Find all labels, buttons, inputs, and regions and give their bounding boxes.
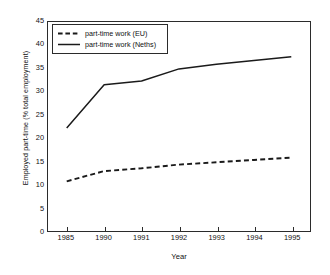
y-tick-label: 20 [22,135,44,142]
x-tick-label: 1990 [95,234,111,241]
y-tick-label: 15 [22,158,44,165]
x-tick-label: 1993 [208,234,224,241]
x-axis-title: Year [47,252,311,261]
legend-item-label: part-time work (Neths) [85,40,156,49]
series-line-1 [67,158,292,182]
x-tick-mark [293,227,294,231]
y-tick-label: 10 [22,181,44,188]
line-chart: Employed part-time (% total employment) … [0,0,330,275]
y-axis-tick-labels: 051015202530354045 [22,21,44,232]
x-tick-mark [180,227,181,231]
chart-legend: part-time work (EU)part-time work (Neths… [52,24,168,54]
x-tick-label: 1985 [58,234,74,241]
solid-line-swatch [58,40,80,49]
x-axis-tick-labels: 1985199019911992199319941995 [47,234,311,246]
legend-item: part-time work (EU) [58,28,167,39]
x-tick-label: 1991 [133,234,149,241]
y-tick-label: 5 [22,205,44,212]
x-tick-mark [142,227,143,231]
y-tick-label: 25 [22,111,44,118]
x-tick-mark [105,227,106,231]
y-tick-label: 30 [22,88,44,95]
y-tick-label: 40 [22,41,44,48]
x-tick-mark [218,227,219,231]
x-tick-mark [67,227,68,231]
y-tick-label: 35 [22,64,44,71]
legend-item-label: part-time work (EU) [85,29,147,38]
x-tick-label: 1995 [284,234,300,241]
x-tick-mark [255,227,256,231]
x-tick-label: 1994 [246,234,262,241]
y-tick-label: 45 [22,17,44,24]
dashed-line-swatch [58,29,80,38]
series-line-2 [67,57,292,128]
y-tick-label: 0 [22,228,44,235]
legend-item: part-time work (Neths) [58,39,167,50]
x-tick-label: 1992 [171,234,187,241]
